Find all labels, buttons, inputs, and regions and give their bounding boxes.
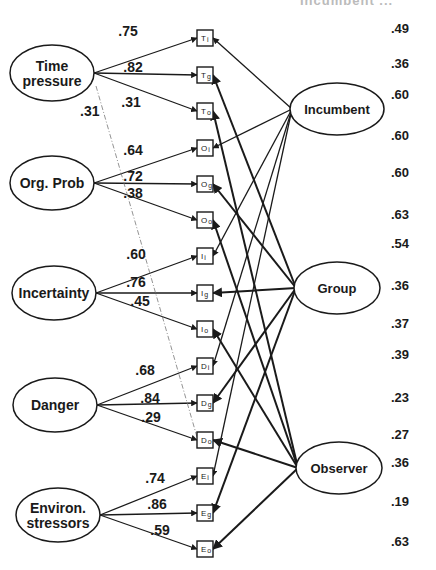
trait-loading-arrow — [94, 183, 197, 220]
trait-loading-value: .64 — [123, 142, 143, 158]
indicator-label: Og — [201, 180, 212, 190]
indicator-label: Tg — [201, 71, 211, 81]
right-column-value: .23 — [391, 390, 409, 405]
trait-loading-value: .76 — [126, 274, 146, 290]
path-diagram: Timepressure.75.82.31Org. Prob.64.72.38I… — [0, 0, 436, 570]
indicator-label: Eg — [201, 509, 211, 519]
right-column-value: .36 — [391, 56, 409, 71]
trait-loading-arrow — [100, 515, 197, 549]
indicator-label: Ei — [201, 472, 209, 481]
method-loading-arrow — [213, 109, 292, 148]
right-column-value: .60 — [391, 87, 409, 102]
paths-layer — [94, 38, 298, 549]
method-factor-label: Group — [318, 281, 357, 296]
trait-loading-value: .68 — [135, 362, 155, 378]
trait-loading-arrow — [94, 73, 197, 111]
trait-factor-label: pressure — [22, 73, 81, 89]
method-loading-arrow — [213, 109, 292, 366]
right-column-value: .60 — [391, 165, 409, 180]
indicator-label: Dg — [201, 399, 212, 409]
trait-factor-label: Time — [36, 58, 69, 74]
right-column-value: .49 — [391, 21, 409, 36]
trait-factor-label: Org. Prob — [20, 175, 85, 191]
right-column-value: .39 — [391, 347, 409, 362]
indicator-label: Ig — [201, 289, 208, 299]
indicator-label: Ii — [201, 252, 206, 261]
right-column-value: .27 — [391, 427, 409, 442]
indicator-label: To — [201, 107, 211, 116]
trait-loading-arrow — [94, 73, 197, 75]
indicator-label: Oi — [201, 144, 210, 153]
method-loading-arrow — [213, 184, 296, 288]
trait-factor-label: Danger — [31, 397, 80, 413]
trait-loading-value: .84 — [140, 390, 160, 406]
method-factor-label: Incumbent — [304, 102, 370, 117]
trait-loading-value: .29 — [141, 409, 161, 425]
correlation-value: .31 — [80, 103, 100, 119]
trait-loading-value: .74 — [145, 470, 165, 486]
indicator-label: Oo — [201, 216, 212, 225]
indicator-label: Di — [201, 362, 210, 371]
method-loading-arrow — [213, 38, 292, 109]
right-column-value: .63 — [391, 534, 409, 549]
method-loading-arrow — [213, 440, 298, 468]
right-column-value: .19 — [391, 494, 409, 509]
indicator-label: Eo — [201, 545, 211, 554]
right-column-value: .36 — [391, 278, 409, 293]
trait-factor-label: Environ. — [30, 500, 86, 516]
method-loading-arrow — [213, 288, 296, 513]
trait-loading-arrow — [94, 183, 197, 184]
right-column-value: .36 — [391, 455, 409, 470]
indicator-label: Do — [201, 436, 212, 445]
trait-loading-value: .45 — [130, 293, 150, 309]
trait-loading-value: .72 — [123, 168, 143, 184]
trait-loading-value: .75 — [118, 23, 138, 39]
trait-loading-value: .82 — [123, 59, 143, 75]
trait-factor-label: stressors — [26, 515, 89, 531]
trait-loading-value: .59 — [150, 522, 170, 538]
right-column-value: .63 — [391, 207, 409, 222]
right-column-value: .60 — [391, 128, 409, 143]
trait-loading-value: .31 — [121, 94, 141, 110]
trait-factor-label: Incertainty — [19, 285, 90, 301]
indicator-label: Ti — [201, 34, 209, 43]
right-column-value: .37 — [391, 316, 409, 331]
trait-loading-value: .60 — [126, 246, 146, 262]
trait-loading-value: .38 — [123, 185, 143, 201]
right-column-value: .54 — [391, 236, 410, 251]
method-loading-arrow — [213, 288, 296, 403]
trait-loading-arrow — [94, 148, 197, 183]
method-factor-label: Observer — [310, 461, 367, 476]
trait-loading-value: .86 — [147, 496, 167, 512]
indicator-label: Io — [201, 325, 208, 334]
trait-loading-arrow — [100, 513, 197, 515]
trait-loading-arrow — [94, 38, 197, 73]
